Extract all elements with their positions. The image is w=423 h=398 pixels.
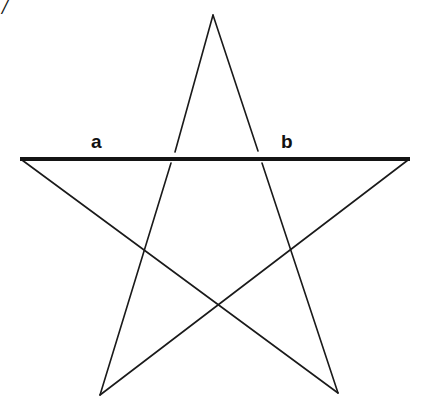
line-right-tip-to-bottom-left	[100, 160, 408, 395]
line-left-tip-to-bottom-right	[22, 160, 338, 393]
line-apex-to-bottom-right-lower	[262, 163, 338, 393]
corner-mark: /	[0, 0, 10, 18]
line-apex-to-bottom-right-upper	[213, 15, 258, 151]
line-apex-to-bottom-left-lower	[100, 163, 171, 395]
pentagram-figure: / a b	[0, 0, 423, 398]
label-b: b	[281, 131, 293, 152]
label-a: a	[91, 131, 102, 152]
line-apex-to-bottom-left-upper	[175, 15, 213, 152]
